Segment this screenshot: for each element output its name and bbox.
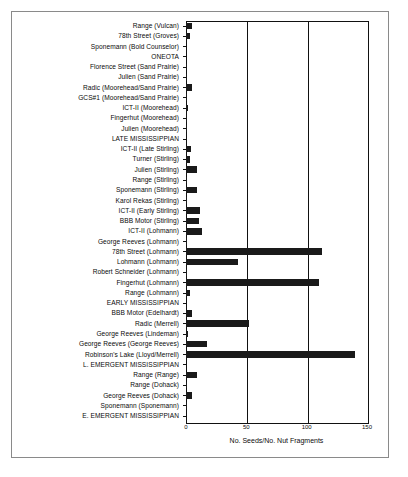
- bar-series: [186, 21, 367, 422]
- bar: [186, 248, 322, 255]
- category-label: Julien (Moorehead): [12, 124, 183, 134]
- bar: [186, 351, 355, 358]
- chart-plot-wrapper: Range (Vulcan)78th Street (Groves)Sponem…: [12, 12, 390, 459]
- category-label: BBB Motor (Stirling): [12, 216, 183, 226]
- bar-row: [186, 237, 367, 247]
- bar: [186, 156, 190, 163]
- category-label: Karol Rekas (Stirling): [12, 196, 183, 206]
- bar-row: [186, 154, 367, 164]
- bar-row: [186, 196, 367, 206]
- bar-row: [186, 62, 367, 72]
- bar: [186, 228, 202, 235]
- category-tick-mark: [183, 46, 186, 47]
- x-tick-label: 100: [302, 424, 312, 430]
- category-label: George Reeves (George Reeves): [12, 339, 183, 349]
- bar: [186, 372, 197, 379]
- bar-row: [186, 360, 367, 370]
- bar: [186, 331, 188, 338]
- bar-row: [186, 134, 367, 144]
- category-label: Robinson's Lake (Lloyd/Merrell): [12, 350, 183, 360]
- bar-row: [186, 391, 367, 401]
- category-label: BBB Motor (Edelhardt): [12, 308, 183, 318]
- bar: [186, 310, 192, 317]
- bar-row: [186, 319, 367, 329]
- category-label: Radic (Merrell): [12, 319, 183, 329]
- category-label: Sponemann (Sponemann): [12, 401, 183, 411]
- bar-row: [186, 103, 367, 113]
- bar: [186, 207, 200, 214]
- category-label: ICT-II (Lohmann): [12, 226, 183, 236]
- value-axis-tick-labels: 050100150: [186, 424, 367, 436]
- category-label: ICT-II (Moorehead): [12, 103, 183, 113]
- bar-row: [186, 278, 367, 288]
- category-label: Sponemann (Bold Counselor): [12, 42, 183, 52]
- bar: [186, 64, 187, 71]
- bar-row: [186, 21, 367, 31]
- category-tick-mark: [183, 139, 186, 140]
- bar: [186, 105, 188, 112]
- category-label: GCS#1 (Moorehead/Sand Prairie): [12, 93, 183, 103]
- category-axis-labels: Range (Vulcan)78th Street (Groves)Sponem…: [12, 21, 183, 422]
- x-tick-label: 0: [184, 424, 187, 430]
- bar: [186, 166, 197, 173]
- bar-row: [186, 185, 367, 195]
- bar-row: [186, 93, 367, 103]
- category-label: L. EMERGENT MISSISSIPPIAN: [12, 360, 183, 370]
- bar: [186, 94, 187, 101]
- bar-row: [186, 31, 367, 41]
- bar: [186, 197, 187, 204]
- bar: [186, 125, 187, 132]
- bar-row: [186, 267, 367, 277]
- category-label: Fingerhut (Moorehead): [12, 113, 183, 123]
- bar: [186, 187, 197, 194]
- bar-row: [186, 113, 367, 123]
- category-label: Robert Schneider (Lohmann): [12, 267, 183, 277]
- bar: [186, 177, 187, 184]
- bar: [186, 269, 187, 276]
- bar-row: [186, 144, 367, 154]
- bar-row: [186, 52, 367, 62]
- category-label: George Reeves (Lindeman): [12, 329, 183, 339]
- bar: [186, 341, 207, 348]
- bar: [186, 402, 187, 409]
- bar: [186, 290, 190, 297]
- category-label: ICT-II (Late Stirling): [12, 144, 183, 154]
- bar-row: [186, 401, 367, 411]
- category-tick-mark: [183, 364, 186, 365]
- bar: [186, 392, 192, 399]
- category-label: Fingerhut (Lohmann): [12, 278, 183, 288]
- category-label: Julien (Sand Prairie): [12, 72, 183, 82]
- bar-row: [186, 247, 367, 257]
- bar-row: [186, 124, 367, 134]
- bar-row: [186, 83, 367, 93]
- category-label: Range (Range): [12, 370, 183, 380]
- category-label: Lohmann (Lohmann): [12, 257, 183, 267]
- bar-row: [186, 329, 367, 339]
- category-label: Range (Dohack): [12, 380, 183, 390]
- bar-row: [186, 370, 367, 380]
- x-tick-label: 150: [362, 424, 372, 430]
- category-tick-mark: [183, 56, 186, 57]
- bar-row: [186, 165, 367, 175]
- category-label: Range (Vulcan): [12, 21, 183, 31]
- category-label: Turner (Stirling): [12, 154, 183, 164]
- bar: [186, 320, 249, 327]
- bar: [186, 382, 187, 389]
- category-label: 78th Street (Groves): [12, 31, 183, 41]
- category-label: Sponemann (Stirling): [12, 185, 183, 195]
- category-label: E. EMERGENT MISSISSIPPIAN: [12, 411, 183, 421]
- category-label: 78th Street (Lohmann): [12, 247, 183, 257]
- category-label: George Reeves (Lohmann): [12, 237, 183, 247]
- bar: [186, 238, 187, 245]
- x-axis-title: No. Seeds/No. Nut Fragments: [186, 437, 367, 444]
- x-tick-label: 50: [243, 424, 250, 430]
- category-label: EARLY MISSISSIPPIAN: [12, 298, 183, 308]
- category-label: George Reeves (Dohack): [12, 391, 183, 401]
- category-label: ONEOTA: [12, 52, 183, 62]
- bar-row: [186, 339, 367, 349]
- bar: [186, 146, 191, 153]
- bar-row: [186, 42, 367, 52]
- bar-row: [186, 308, 367, 318]
- bar-row: [186, 298, 367, 308]
- bar-row: [186, 350, 367, 360]
